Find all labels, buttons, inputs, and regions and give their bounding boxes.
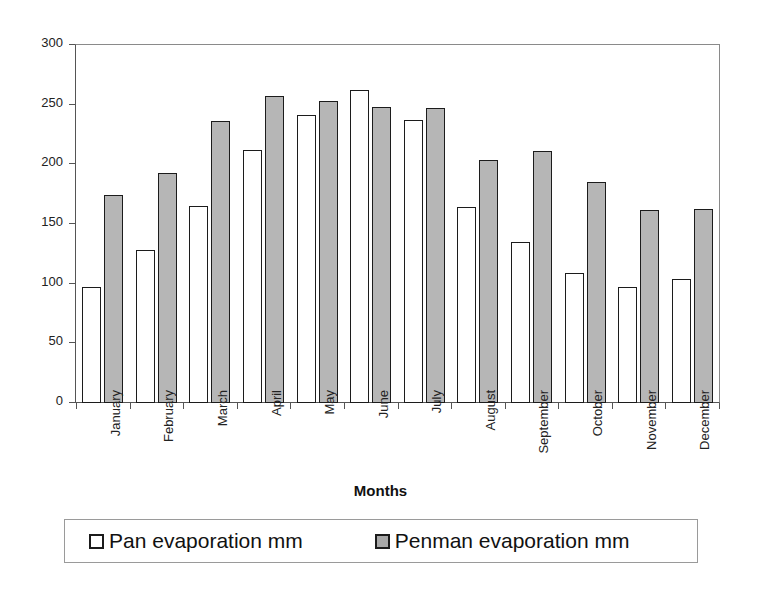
y-axis-tick-label: 300	[41, 35, 63, 50]
bar-penman[interactable]	[426, 108, 445, 403]
bar-group	[189, 45, 230, 403]
bar-pan[interactable]	[297, 115, 316, 403]
legend-label-pan: Pan evaporation mm	[109, 529, 303, 553]
bar-pan[interactable]	[136, 250, 155, 403]
bar-penman[interactable]	[533, 151, 552, 403]
y-axis-tick-label: 0	[56, 393, 63, 408]
bar-penman[interactable]	[319, 101, 338, 403]
x-axis-label: April	[269, 390, 285, 480]
bar-group	[350, 45, 391, 403]
x-axis-label-text: December	[697, 390, 712, 450]
x-axis-label-text: June	[376, 390, 391, 418]
bar-penman[interactable]	[104, 195, 123, 403]
bar-pan[interactable]	[618, 287, 637, 403]
y-axis-tick-label: 50	[49, 333, 63, 348]
x-axis-label-text: March	[215, 390, 230, 426]
x-axis-label-group: JanuaryFebruaryMarchAprilMayJuneJulyAugu…	[76, 408, 719, 478]
bar-pan[interactable]	[457, 207, 476, 403]
x-axis-label-text: April	[269, 390, 284, 416]
bar-penman[interactable]	[211, 121, 230, 403]
y-axis-tick-label: 250	[41, 95, 63, 110]
x-axis-label-text: November	[644, 390, 659, 450]
x-axis-label-text: February	[161, 390, 176, 442]
x-axis-title: Months	[0, 482, 761, 499]
x-axis-tick-mark	[719, 403, 720, 409]
bar-penman[interactable]	[372, 107, 391, 403]
gray-square-swatch-icon	[375, 534, 390, 549]
bars-layer	[76, 45, 719, 403]
y-axis-tick-label: 200	[41, 154, 63, 169]
bar-penman[interactable]	[265, 96, 284, 403]
bar-group	[457, 45, 498, 403]
bar-pan[interactable]	[243, 150, 262, 403]
x-axis-label: December	[697, 390, 713, 480]
bar-group	[618, 45, 659, 403]
y-axis-tick-group: 050100150200250300	[0, 44, 75, 403]
bar-group	[297, 45, 338, 403]
legend-label-penman: Penman evaporation mm	[395, 529, 630, 553]
bar-group	[404, 45, 445, 403]
bar-group	[136, 45, 177, 403]
white-square-swatch-icon	[89, 534, 104, 549]
x-axis-label-text: January	[108, 390, 123, 436]
bar-pan[interactable]	[565, 273, 584, 403]
x-axis-label: January	[108, 390, 124, 480]
legend-item-pan[interactable]: Pan evaporation mm	[89, 529, 303, 553]
x-axis-label: November	[644, 390, 660, 480]
bar-group	[511, 45, 552, 403]
bar-pan[interactable]	[189, 206, 208, 403]
bar-group	[672, 45, 713, 403]
bar-group	[82, 45, 123, 403]
x-axis-label: June	[376, 390, 392, 480]
x-axis-label: August	[483, 390, 499, 480]
x-axis-label-text: October	[590, 390, 605, 436]
bar-group	[565, 45, 606, 403]
x-axis-label: May	[322, 390, 338, 480]
x-axis-label: July	[429, 390, 445, 480]
bar-penman[interactable]	[479, 160, 498, 403]
chart-legend: Pan evaporation mm Penman evaporation mm	[64, 519, 698, 563]
x-axis-label: October	[590, 390, 606, 480]
bar-pan[interactable]	[404, 120, 423, 403]
bar-pan[interactable]	[350, 90, 369, 403]
x-axis-label: March	[215, 390, 231, 480]
bar-penman[interactable]	[640, 210, 659, 403]
x-axis-label: February	[161, 390, 177, 480]
y-axis-tick-label: 150	[41, 214, 63, 229]
bar-pan[interactable]	[511, 242, 530, 403]
bar-group	[243, 45, 284, 403]
legend-item-penman[interactable]: Penman evaporation mm	[375, 529, 630, 553]
x-axis-label-text: July	[429, 390, 444, 413]
x-axis-label-text: August	[483, 390, 498, 430]
bar-penman[interactable]	[587, 182, 606, 403]
bar-penman[interactable]	[694, 209, 713, 404]
y-axis-tick-label: 100	[41, 274, 63, 289]
evaporation-bar-chart: Evaporation 050100150200250300 JanuaryFe…	[0, 0, 761, 597]
bar-pan[interactable]	[672, 279, 691, 403]
x-axis-label-text: September	[536, 390, 551, 454]
x-axis-label-text: May	[322, 390, 337, 415]
bar-penman[interactable]	[158, 173, 177, 403]
x-axis-label: September	[536, 390, 552, 480]
bar-pan[interactable]	[82, 287, 101, 403]
